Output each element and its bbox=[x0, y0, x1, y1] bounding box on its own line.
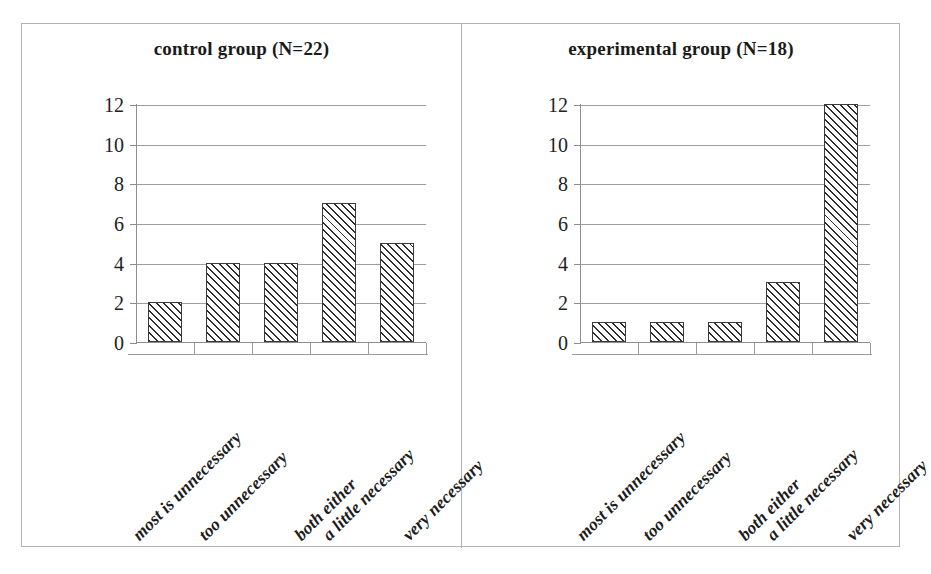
y-axis-tick bbox=[574, 224, 581, 225]
x-axis-category-tick bbox=[310, 343, 311, 355]
x-axis-category-tick bbox=[812, 343, 813, 355]
x-axis-category-label: most is unnecessary bbox=[572, 427, 690, 545]
y-axis-tick bbox=[130, 184, 137, 185]
y-axis-tick bbox=[574, 343, 581, 344]
y-axis-tick bbox=[574, 264, 581, 265]
x-axis-category-label: most is unnecessary bbox=[128, 427, 246, 545]
y-axis-tick-label: 8 bbox=[114, 173, 124, 196]
x-axis-category-tick bbox=[696, 343, 697, 355]
bar bbox=[650, 322, 684, 342]
x-axis-labels-experimental: most is unnecessarytoo unnecessaryboth e… bbox=[462, 355, 900, 545]
bar bbox=[206, 263, 240, 342]
x-axis-category-tick bbox=[368, 343, 369, 355]
y-axis-tick bbox=[130, 145, 137, 146]
y-axis-tick-label: 2 bbox=[558, 292, 568, 315]
y-axis-tick-label: 6 bbox=[558, 213, 568, 236]
y-axis-tick bbox=[574, 105, 581, 106]
y-axis-tick-label: 12 bbox=[548, 94, 568, 117]
y-axis-tick-label: 12 bbox=[104, 94, 124, 117]
plot-area-experimental-group: 024681012 bbox=[580, 105, 870, 343]
figure-frame: control group (N=22) 024681012 most is u… bbox=[21, 23, 900, 547]
bar bbox=[380, 243, 414, 342]
y-axis-tick-label: 0 bbox=[558, 332, 568, 355]
gridline bbox=[136, 105, 426, 106]
x-axis-category-tick bbox=[870, 343, 871, 355]
chart-panel-control-group: control group (N=22) 024681012 most is u… bbox=[22, 24, 461, 548]
bar bbox=[264, 263, 298, 342]
y-axis-tick bbox=[130, 105, 137, 106]
x-axis-labels-control: most is unnecessarytoo unnecessaryboth e… bbox=[22, 355, 461, 545]
y-axis-tick bbox=[130, 303, 137, 304]
x-axis-category-tick bbox=[194, 343, 195, 355]
y-axis-tick-label: 4 bbox=[114, 252, 124, 275]
y-axis-tick bbox=[130, 343, 137, 344]
gridline bbox=[136, 184, 426, 185]
bar bbox=[592, 322, 626, 342]
x-axis-line-experimental bbox=[580, 342, 870, 343]
y-axis-tick bbox=[574, 303, 581, 304]
y-axis-tick bbox=[130, 264, 137, 265]
x-axis-category-tick bbox=[426, 343, 427, 355]
chart-panel-experimental-group: experimental group (N=18) 024681012 most… bbox=[462, 24, 900, 548]
bar bbox=[824, 104, 858, 342]
bar bbox=[148, 302, 182, 342]
chart-title-experimental-group: experimental group (N=18) bbox=[462, 38, 900, 60]
chart-title-control-group: control group (N=22) bbox=[22, 38, 461, 60]
y-axis-tick-label: 2 bbox=[114, 292, 124, 315]
x-axis-category-label: very necessary bbox=[842, 455, 931, 545]
x-axis-category-tick bbox=[754, 343, 755, 355]
y-axis-tick bbox=[574, 184, 581, 185]
y-axis-tick bbox=[130, 224, 137, 225]
y-axis-tick-label: 10 bbox=[548, 133, 568, 156]
x-axis-category-tick bbox=[252, 343, 253, 355]
y-axis-tick-label: 0 bbox=[114, 332, 124, 355]
plot-area-control-group: 024681012 bbox=[136, 105, 426, 343]
x-axis-category-tick bbox=[638, 343, 639, 355]
bar bbox=[766, 282, 800, 342]
x-axis-line-control bbox=[136, 342, 426, 343]
y-axis-tick-label: 4 bbox=[558, 252, 568, 275]
y-axis-tick-label: 10 bbox=[104, 133, 124, 156]
y-axis-tick bbox=[574, 145, 581, 146]
gridline bbox=[136, 224, 426, 225]
y-axis-tick-label: 8 bbox=[558, 173, 568, 196]
bar bbox=[322, 203, 356, 342]
gridline bbox=[136, 145, 426, 146]
bar bbox=[708, 322, 742, 342]
y-axis-tick-label: 6 bbox=[114, 213, 124, 236]
